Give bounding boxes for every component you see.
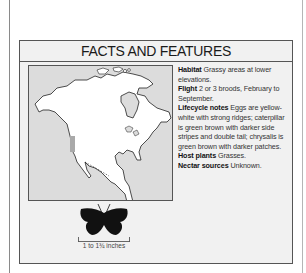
fact-value: Unknown. xyxy=(230,161,261,170)
fact-label: Habitat xyxy=(178,65,202,74)
facts-list: Habitat Grassy areas at lower elevations… xyxy=(178,65,290,171)
fact-nectar-sources: Nectar sources Unknown. xyxy=(178,161,290,171)
page-edge-right xyxy=(302,0,303,273)
fact-lifecycle-notes: Lifecycle notes Eggs are yellow-white wi… xyxy=(178,103,290,151)
fact-label: Flight xyxy=(178,84,197,93)
species-range-area xyxy=(70,136,75,152)
fact-host-plants: Host plants Grasses. xyxy=(178,151,290,161)
page-edge-left xyxy=(9,0,10,273)
fact-habitat: Habitat Grassy areas at lower elevations… xyxy=(178,65,290,84)
range-map xyxy=(28,65,173,201)
fact-label: Host plants xyxy=(178,151,216,160)
north-america-map-icon xyxy=(29,66,173,201)
wingspan-label: 1 to 1¾ inches xyxy=(64,242,144,249)
panel-title: FACTS AND FEATURES xyxy=(20,41,292,62)
fact-label: Lifecycle notes xyxy=(178,103,228,112)
butterfly-silhouette-icon xyxy=(78,203,130,237)
facts-and-features-panel: FACTS AND FEATURES Habitat Grassy areas … xyxy=(19,40,293,264)
fact-label: Nectar sources xyxy=(178,161,229,170)
fact-flight: Flight 2 or 3 broods, February to Septem… xyxy=(178,84,290,103)
fact-value: Grasses. xyxy=(218,151,246,160)
